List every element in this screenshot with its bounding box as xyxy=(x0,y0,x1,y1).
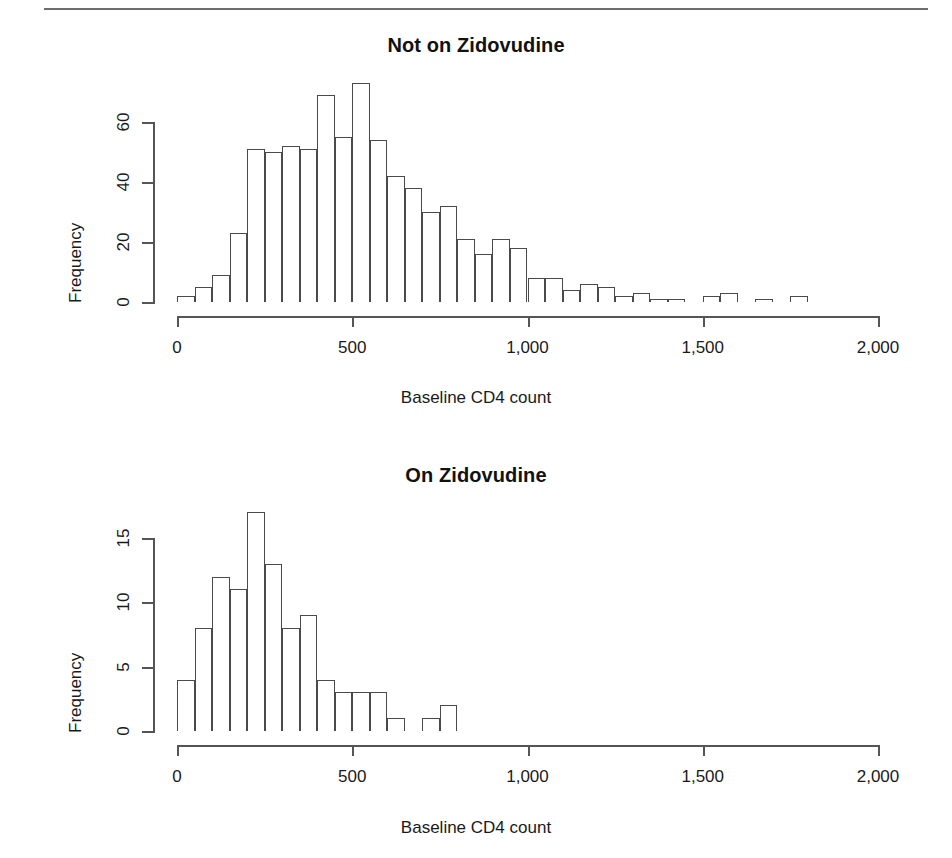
histogram-bar xyxy=(195,287,213,302)
histogram-bar xyxy=(282,628,300,731)
histogram-bar xyxy=(440,705,458,731)
histogram-bar xyxy=(668,299,686,302)
histogram-bar xyxy=(387,718,405,731)
histogram-bar xyxy=(528,278,546,302)
y-axis-tick xyxy=(142,731,155,733)
x-axis-tick-label: 1,500 xyxy=(681,338,724,358)
y-axis-tick-label: 5 xyxy=(114,650,134,684)
histogram-bar xyxy=(265,564,283,731)
y-axis-line xyxy=(153,122,155,304)
histogram-bar xyxy=(177,680,195,731)
histogram-bar xyxy=(212,577,230,731)
x-axis-tick-label: 1,000 xyxy=(506,767,549,787)
figure-page: Not on Zidovudine Frequency 05001,0001,5… xyxy=(0,0,952,858)
histogram-bar xyxy=(212,275,230,302)
histogram-bar xyxy=(352,692,370,731)
histogram-bar xyxy=(335,692,353,731)
x-axis-tick xyxy=(878,316,880,327)
histogram-bar xyxy=(370,692,388,731)
histogram-bar xyxy=(230,233,248,302)
histogram-bar xyxy=(457,239,475,302)
histogram-bar xyxy=(247,149,265,302)
x-axis-tick-label: 1,000 xyxy=(506,338,549,358)
y-axis-tick-label: 60 xyxy=(114,105,134,139)
histogram-bar xyxy=(422,212,440,302)
histogram-bar xyxy=(177,296,195,302)
histogram-bar xyxy=(440,206,458,302)
page-top-rule xyxy=(44,8,928,10)
x-axis-tick xyxy=(528,316,530,327)
y-axis-tick xyxy=(142,242,155,244)
y-axis-tick-label: 15 xyxy=(114,521,134,555)
x-axis-label-not-on-zidovudine: Baseline CD4 count xyxy=(0,388,952,408)
histogram-bar xyxy=(755,299,773,302)
histogram-bar xyxy=(422,718,440,731)
histogram-bar xyxy=(230,589,248,731)
histogram-bar xyxy=(317,680,335,731)
histogram-bar xyxy=(387,176,405,302)
histogram-bar xyxy=(317,95,335,302)
histogram-bar xyxy=(300,149,318,302)
y-axis-label-on-zidovudine: Frequency xyxy=(66,653,86,733)
histogram-bar xyxy=(492,239,510,302)
x-axis-tick xyxy=(352,745,354,756)
histogram-bar xyxy=(265,152,283,302)
histogram-bar xyxy=(580,284,598,302)
y-axis-tick xyxy=(142,122,155,124)
panel-title-on-zidovudine: On Zidovudine xyxy=(0,464,952,487)
x-axis-label-on-zidovudine: Baseline CD4 count xyxy=(0,818,952,838)
histogram-bar xyxy=(563,290,581,302)
histogram-bar xyxy=(650,299,668,302)
x-axis-tick-label: 2,000 xyxy=(857,338,900,358)
y-axis-tick xyxy=(142,182,155,184)
x-axis-tick xyxy=(703,316,705,327)
x-axis-tick-label: 0 xyxy=(172,767,181,787)
histogram-bar xyxy=(510,248,528,302)
x-axis-tick xyxy=(703,745,705,756)
histogram-bar xyxy=(282,146,300,302)
histogram-bar xyxy=(720,293,738,302)
histogram-bar xyxy=(352,83,370,302)
y-axis-tick-label: 20 xyxy=(114,225,134,259)
histogram-bar xyxy=(633,293,651,302)
histogram-bar xyxy=(790,296,808,302)
histogram-bar xyxy=(247,512,265,731)
histogram-bar xyxy=(335,137,353,302)
x-axis-tick xyxy=(878,745,880,756)
x-axis-tick-label: 500 xyxy=(338,767,366,787)
histogram-bar xyxy=(598,287,616,302)
x-axis-tick xyxy=(177,745,179,756)
histogram-bar xyxy=(475,254,493,302)
histogram-panel-not-on-zidovudine: Not on Zidovudine Frequency 05001,0001,5… xyxy=(0,18,952,430)
y-axis-tick-label: 0 xyxy=(114,714,134,748)
x-axis-tick-label: 1,500 xyxy=(681,767,724,787)
histogram-bar xyxy=(370,140,388,302)
histogram-bar xyxy=(300,615,318,731)
histogram-bar xyxy=(615,296,633,302)
y-axis-tick-label: 40 xyxy=(114,165,134,199)
x-axis-tick-label: 500 xyxy=(338,338,366,358)
y-axis-line xyxy=(153,538,155,733)
histogram-bar xyxy=(195,628,213,731)
x-axis-tick xyxy=(177,316,179,327)
y-axis-tick xyxy=(142,667,155,669)
y-axis-tick-label: 0 xyxy=(114,285,134,319)
histogram-bar xyxy=(545,278,563,302)
histogram-bar xyxy=(405,188,423,302)
y-axis-tick xyxy=(142,602,155,604)
y-axis-tick xyxy=(142,538,155,540)
y-axis-tick xyxy=(142,302,155,304)
panel-title-not-on-zidovudine: Not on Zidovudine xyxy=(0,34,952,57)
x-axis-tick xyxy=(528,745,530,756)
histogram-bar xyxy=(703,296,721,302)
y-axis-tick-label: 10 xyxy=(114,585,134,619)
histogram-panel-on-zidovudine: On Zidovudine Frequency 05001,0001,5002,… xyxy=(0,448,952,858)
x-axis-tick-label: 0 xyxy=(172,338,181,358)
x-axis-tick-label: 2,000 xyxy=(857,767,900,787)
y-axis-label-not-on-zidovudine: Frequency xyxy=(66,223,86,303)
x-axis-tick xyxy=(352,316,354,327)
